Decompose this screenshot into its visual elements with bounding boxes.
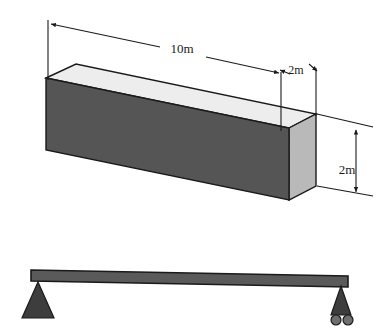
width-dimension-label: 2m [288,63,304,77]
width-arrow-right [309,64,317,71]
simply-supported-beam [22,270,353,325]
pin-support-triangle [22,282,54,318]
beam-figure-root: 10m 2m 2m [0,0,382,334]
roller-wheel-right [343,315,353,325]
height-leader-bottom [317,186,373,196]
height-leader-top [317,114,373,127]
roller-support-right [331,286,353,325]
roller-wheel-left [331,315,341,325]
length-dimension-label: 10m [170,41,193,56]
beam-member [31,270,348,287]
rectangular-beam-prism [46,64,316,200]
prism-right-end-face [289,114,316,200]
roller-support-triangle [331,286,351,315]
figure-canvas: 10m 2m 2m [0,0,382,334]
height-dimension: 2m [317,114,373,196]
pin-support-left [22,282,54,318]
length-leader-left [51,24,160,47]
height-dimension-label: 2m [339,162,356,177]
length-leader-right [206,57,279,73]
